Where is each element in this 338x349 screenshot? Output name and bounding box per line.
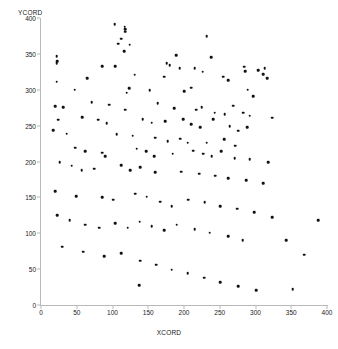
x-tick-label: 150 [143,309,154,316]
data-point [214,175,217,178]
y-tick-mark [37,89,40,90]
data-point [245,179,248,182]
data-point [201,71,204,74]
data-point [156,102,159,105]
data-point [166,140,169,143]
data-point [252,95,255,98]
data-point [182,118,185,121]
data-point [219,205,222,208]
data-point [246,126,249,129]
data-point [210,56,213,59]
data-point [248,158,251,161]
x-tick-label: 200 [179,309,190,316]
data-point [104,155,107,158]
data-point [151,121,154,124]
data-point [82,251,85,254]
data-point [303,253,306,256]
data-point [222,76,225,79]
data-point [176,223,179,226]
data-point [126,226,129,229]
data-point [243,65,246,68]
data-point [285,239,288,242]
data-point [146,195,149,198]
data-point [171,152,174,155]
plot-area [41,18,327,305]
y-tick-mark [37,233,40,234]
data-point [57,119,60,122]
data-point [117,43,120,46]
data-point [271,216,274,219]
x-tick-mark [112,306,113,309]
data-point [115,133,118,136]
data-point [145,150,148,153]
data-point [105,122,108,125]
data-point [186,272,189,275]
data-point [54,105,57,108]
data-point [173,107,176,110]
data-point [248,114,251,117]
data-point [271,116,274,119]
data-point [213,111,216,114]
data-point [65,132,68,135]
data-point [203,201,206,204]
data-point [233,157,236,160]
data-point [75,195,78,198]
data-point [266,77,269,80]
data-point [242,111,245,114]
data-point [267,161,270,164]
data-point [90,101,93,104]
y-tick-mark [37,125,40,126]
data-point [154,137,157,140]
data-point [237,129,240,132]
data-point [203,276,206,279]
data-point [114,65,117,68]
x-tick-label: 250 [214,309,225,316]
x-tick-mark [76,306,77,309]
data-point [138,284,141,287]
y-tick-label: 250 [0,122,36,129]
x-tick-label: 400 [322,309,333,316]
data-point [113,23,116,26]
data-point [175,54,178,57]
x-tick-mark [184,306,185,309]
data-point [120,38,123,41]
data-point [206,142,209,145]
data-point [155,264,158,267]
data-point [255,289,258,292]
x-tick-mark [327,306,328,309]
data-point [193,228,196,231]
x-tick-label: 0 [39,309,43,316]
data-point [178,67,181,70]
y-tick-label: 100 [0,230,36,237]
data-point [291,288,294,291]
data-point [126,91,129,94]
data-point [81,116,84,119]
data-point [73,88,76,91]
scatter-plot-figure: YCORD 0501001502002503003504000501001502… [0,0,338,349]
data-point [139,259,142,262]
data-point [171,269,174,272]
data-point [193,67,196,70]
y-tick-mark [37,161,40,162]
x-tick-label: 350 [286,309,297,316]
data-point [131,134,134,137]
x-tick-label: 300 [250,309,261,316]
data-point [232,104,235,107]
data-point [123,50,126,53]
data-point [227,235,230,238]
x-tick-label: 100 [107,309,118,316]
data-point [212,118,215,121]
data-point [62,106,65,109]
data-point [211,155,214,158]
data-point [93,167,96,170]
x-tick-mark [291,306,292,309]
data-point [108,104,111,107]
x-tick-mark [148,306,149,309]
data-point [257,69,260,72]
data-point [114,222,117,225]
data-point [199,126,202,129]
data-point [86,77,89,80]
data-point [262,73,265,76]
data-point [317,219,320,222]
y-tick-label: 0 [0,302,36,309]
